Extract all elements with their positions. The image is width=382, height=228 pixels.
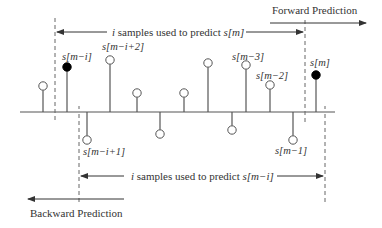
label-s-m-minus-i: s[m−i]: [62, 51, 92, 62]
hollow-sample-marker: [133, 89, 141, 97]
hollow-sample-marker: [289, 136, 297, 144]
filled-sample-marker: [63, 63, 71, 71]
hollow-sample-marker: [180, 89, 188, 97]
hollow-sample-marker: [204, 59, 212, 67]
hollow-sample-marker: [266, 81, 274, 89]
hollow-sample-marker: [106, 56, 114, 64]
filled-sample-marker: [312, 71, 320, 79]
hollow-sample-marker: [39, 82, 47, 90]
top-window-label: i samples used to predict s[m]: [112, 26, 244, 38]
hollow-sample-marker: [242, 61, 250, 69]
label-s-m-minus-3: s[m−3]: [232, 51, 264, 62]
label-s-m-minus-1: s[m−1]: [275, 145, 307, 156]
hollow-sample-marker: [156, 130, 164, 138]
prediction-diagram: i samples used to predict s[m] Forward P…: [0, 0, 382, 228]
forward-prediction-label: Forward Prediction: [272, 4, 358, 16]
hollow-sample-marker: [83, 136, 91, 144]
bottom-window-label: i samples used to predict s[m−i]: [131, 170, 274, 182]
label-s-m-minus-i-plus-2: s[m−i+2]: [102, 41, 144, 52]
label-s-m-minus-i-plus-1: s[m−i+1]: [83, 146, 125, 157]
hollow-sample-marker: [228, 126, 236, 134]
label-s-m-minus-2: s[m−2]: [256, 70, 288, 81]
backward-prediction-label: Backward Prediction: [30, 207, 123, 219]
label-s-m: s[m]: [310, 57, 330, 68]
